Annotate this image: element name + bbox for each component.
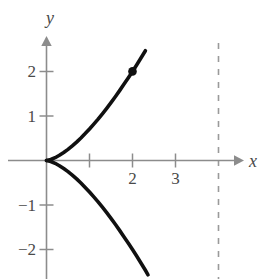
- y-tick-label-minus-1: −1: [2, 197, 36, 214]
- x-tick-label-3: 3: [164, 170, 188, 187]
- y-tick-label-1: 1: [2, 108, 36, 125]
- x-axis-name-label: x: [249, 152, 257, 170]
- x-axis-arrowhead: [234, 155, 244, 165]
- curve-upper-branch-group: [47, 51, 146, 161]
- graph-figure: 2 1 −1 −2 2 3 y x: [0, 0, 267, 279]
- y-tick-label-minus-2: −2: [2, 241, 36, 258]
- y-axis-arrowhead: [41, 36, 51, 46]
- plot-canvas: [0, 0, 267, 279]
- curve-upper-branch: [47, 51, 146, 161]
- y-axis-name-label: y: [46, 9, 54, 27]
- marked-point-dot[interactable]: [128, 67, 137, 76]
- y-tick-label-2: 2: [2, 63, 36, 80]
- marked-point-group[interactable]: [128, 67, 137, 76]
- x-tick-label-2: 2: [121, 170, 145, 187]
- x-axis-group: [8, 154, 244, 168]
